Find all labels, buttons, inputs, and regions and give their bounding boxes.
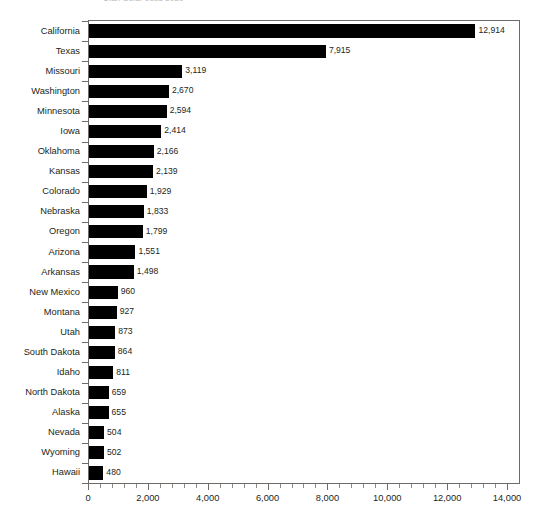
y-axis-label: Oregon	[0, 226, 80, 237]
bar[interactable]	[89, 286, 118, 299]
y-axis-tick	[82, 483, 88, 484]
bar-row[interactable]: 2,414	[89, 121, 519, 141]
y-axis-tick	[82, 182, 88, 183]
x-axis-major-tick	[327, 484, 328, 490]
y-axis-tick	[82, 41, 88, 42]
y-axis-category-labels: CaliforniaTexasMissouriWashingtonMinneso…	[0, 20, 80, 484]
bar-row[interactable]: 960	[89, 282, 519, 302]
bar-row[interactable]: 659	[89, 383, 519, 403]
x-axis-tick-label: 10,000	[373, 492, 401, 504]
bar-row[interactable]: 655	[89, 403, 519, 423]
bar[interactable]	[89, 406, 109, 419]
x-axis-minor-tick	[363, 484, 364, 488]
y-axis-tick	[82, 142, 88, 143]
x-axis-minor-tick	[315, 484, 316, 488]
bar[interactable]	[89, 346, 115, 359]
x-axis-minor-tick	[339, 484, 340, 488]
bar[interactable]	[89, 265, 134, 278]
bar-row[interactable]: 2,594	[89, 101, 519, 121]
bar[interactable]	[89, 366, 113, 379]
bar-row[interactable]: 1,799	[89, 222, 519, 242]
y-axis-label: New Mexico	[0, 287, 80, 298]
bar-row[interactable]: 504	[89, 423, 519, 443]
y-axis-label: Texas	[0, 46, 80, 57]
bar-row[interactable]: 1,929	[89, 182, 519, 202]
bar-row[interactable]: 12,914	[89, 21, 519, 41]
x-axis-minor-tick	[399, 484, 400, 488]
bar-value-label: 7,915	[326, 44, 351, 58]
bar-row[interactable]: 2,166	[89, 142, 519, 162]
y-axis-tick	[82, 222, 88, 223]
y-axis-label: South Dakota	[0, 347, 80, 358]
bar[interactable]	[89, 245, 135, 258]
bar[interactable]	[89, 446, 104, 459]
bar-row[interactable]: 2,139	[89, 162, 519, 182]
bar-value-label: 1,551	[135, 245, 160, 259]
bar[interactable]	[89, 65, 182, 78]
bar[interactable]	[89, 466, 103, 479]
y-axis-label: Nebraska	[0, 206, 80, 217]
y-axis-label: Colorado	[0, 186, 80, 197]
bar-row[interactable]: 1,551	[89, 242, 519, 262]
x-axis-tick-label: 6,000	[256, 492, 279, 504]
x-axis-minor-tick	[351, 484, 352, 488]
y-axis-tick	[82, 61, 88, 62]
bar-value-label: 12,914	[475, 24, 504, 38]
bar-value-label: 2,166	[154, 145, 179, 159]
bar-row[interactable]: 502	[89, 443, 519, 463]
bar-row[interactable]: 2,670	[89, 81, 519, 101]
bar-value-label: 2,670	[169, 84, 194, 98]
bar-row[interactable]: 7,915	[89, 41, 519, 61]
bar[interactable]	[89, 45, 326, 58]
x-axis-minor-tick	[196, 484, 197, 488]
bar-row[interactable]: 811	[89, 362, 519, 382]
bar[interactable]	[89, 185, 147, 198]
y-axis-label: Nevada	[0, 427, 80, 438]
x-axis-minor-tick	[292, 484, 293, 488]
bar[interactable]	[89, 85, 169, 98]
x-axis-minor-tick	[435, 484, 436, 488]
bar[interactable]	[89, 426, 104, 439]
bar-row[interactable]: 480	[89, 463, 519, 483]
bar[interactable]	[89, 326, 115, 339]
x-axis-major-tick	[507, 484, 508, 490]
bar-row[interactable]: 927	[89, 302, 519, 322]
bar[interactable]	[89, 165, 153, 178]
bar-value-label: 655	[109, 406, 126, 420]
x-axis-minor-tick	[100, 484, 101, 488]
bar-value-label: 1,929	[147, 185, 172, 199]
bar[interactable]	[89, 225, 143, 238]
y-axis-tick	[82, 322, 88, 323]
bar-row[interactable]: 873	[89, 322, 519, 342]
y-axis-tick	[82, 242, 88, 243]
y-axis-tick	[82, 423, 88, 424]
bar[interactable]	[89, 125, 161, 138]
x-axis-minor-tick	[280, 484, 281, 488]
bar-row[interactable]: 1,498	[89, 262, 519, 282]
bar-chart-figure: Utah Solar Jobs 2020 CaliforniaTexasMiss…	[0, 0, 535, 526]
x-axis-minor-tick	[136, 484, 137, 488]
chart-title: Utah Solar Jobs 2020	[103, 0, 363, 3]
y-axis-tick	[82, 21, 88, 22]
y-axis-tick	[82, 81, 88, 82]
bar[interactable]	[89, 24, 475, 37]
bar[interactable]	[89, 145, 154, 158]
bar-row[interactable]: 3,119	[89, 61, 519, 81]
bar-row[interactable]: 864	[89, 342, 519, 362]
x-axis-minor-tick	[495, 484, 496, 488]
x-axis-minor-tick	[303, 484, 304, 488]
x-axis-minor-tick	[471, 484, 472, 488]
y-axis-label: Idaho	[0, 367, 80, 378]
bar[interactable]	[89, 205, 144, 218]
x-axis-minor-tick	[411, 484, 412, 488]
y-axis-tick	[82, 282, 88, 283]
y-axis-tick	[82, 463, 88, 464]
y-axis-label: Missouri	[0, 66, 80, 77]
x-axis-tick-label: 4,000	[196, 492, 219, 504]
bar-value-label: 480	[103, 466, 120, 480]
bar[interactable]	[89, 386, 109, 399]
y-axis-label: Hawaii	[0, 467, 80, 478]
bar[interactable]	[89, 105, 167, 118]
bar[interactable]	[89, 306, 117, 319]
bar-row[interactable]: 1,833	[89, 202, 519, 222]
